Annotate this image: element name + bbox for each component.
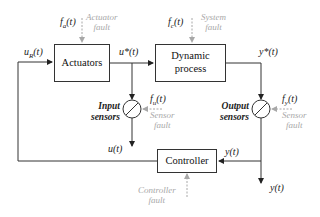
output-sensors-label: Outputsensors: [213, 101, 249, 123]
u-label: u(t): [108, 144, 122, 154]
y-output-label: y(t): [270, 183, 284, 193]
controller-label: Controller: [165, 155, 208, 168]
dynamic-process-block: Dynamic process: [155, 44, 226, 82]
y-star-line: [226, 63, 261, 99]
u-star-label: u*(t): [119, 47, 138, 57]
controller-block: Controller: [157, 149, 217, 173]
system-fault-label: Systemfault: [201, 12, 226, 33]
actuator-fault-label: Actuatorfault: [86, 12, 118, 33]
f-a-label: fa(t): [60, 17, 76, 30]
output-sensor-icon: [252, 100, 270, 118]
u-r-label: uR(t): [24, 47, 43, 60]
y-feedback-label: y(t): [225, 147, 239, 157]
output-sensor-fault-label: Sensorfault: [282, 110, 307, 131]
f-y-label: fy(t): [282, 94, 297, 107]
controller-fault-label: Controllerfault: [138, 185, 176, 206]
actuators-block: Actuators: [54, 44, 110, 82]
process-label-line1: Dynamic: [171, 50, 210, 63]
f-c-label: fc(t): [168, 17, 183, 30]
process-label-line2: process: [175, 63, 207, 76]
input-sensor-fault-label: Sensorfault: [150, 110, 175, 131]
f-u-label: fu(t): [150, 94, 166, 107]
input-sensors-label: Inputsensors: [88, 101, 120, 123]
y-star-label: y*(t): [259, 47, 278, 57]
actuators-label: Actuators: [62, 57, 103, 70]
input-sensor-icon: [123, 100, 141, 118]
